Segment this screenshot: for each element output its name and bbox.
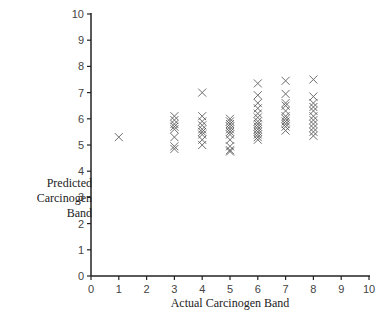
data-point-x-marker (309, 120, 317, 128)
y-tick-label: 6 (78, 113, 84, 125)
x-tick-label: 10 (363, 283, 375, 295)
data-point-x-marker (282, 77, 290, 85)
data-point-x-marker (198, 121, 206, 129)
y-axis-title: Predicted Carcinogen Band (4, 176, 92, 221)
data-point-x-marker (226, 136, 234, 144)
data-point-x-marker (254, 110, 262, 118)
x-tick-label: 4 (199, 283, 205, 295)
y-axis-title-line-2: Carcinogen (4, 191, 92, 206)
axes (91, 13, 370, 276)
x-tick-label: 3 (171, 283, 177, 295)
data-point-x-marker (309, 128, 317, 136)
data-point-x-marker (170, 112, 178, 120)
y-tick-label: 9 (78, 34, 84, 46)
y-tick-label: 10 (72, 8, 84, 20)
data-points (115, 76, 318, 156)
data-point-x-marker (254, 91, 262, 99)
data-point-x-marker (309, 76, 317, 84)
data-point-x-marker (198, 89, 206, 97)
data-point-x-marker (170, 116, 178, 124)
data-point-x-marker (309, 93, 317, 101)
x-tick-label: 7 (283, 283, 289, 295)
data-point-x-marker (309, 112, 317, 120)
data-point-x-marker (282, 90, 290, 98)
x-tick-label: 0 (88, 283, 94, 295)
y-tick-label: 0 (78, 270, 84, 282)
scatter-plot: 012345678910012345678910 (0, 0, 382, 320)
data-point-x-marker (226, 146, 234, 154)
y-tick-label: 1 (78, 244, 84, 256)
x-tick-label: 1 (116, 283, 122, 295)
data-point-x-marker (170, 133, 178, 141)
y-tick-label: 8 (78, 60, 84, 72)
data-point-x-marker (309, 116, 317, 124)
axis-ticks: 012345678910012345678910 (72, 8, 375, 295)
data-point-x-marker (309, 132, 317, 140)
data-point-x-marker (309, 103, 317, 111)
data-point-x-marker (226, 148, 234, 156)
x-axis-title: Actual Carcinogen Band (160, 296, 300, 311)
data-point-x-marker (309, 99, 317, 107)
data-point-x-marker (198, 117, 206, 125)
x-tick-label: 2 (144, 283, 150, 295)
y-tick-label: 7 (78, 87, 84, 99)
y-axis-title-line-1: Predicted (4, 176, 92, 191)
data-point-x-marker (309, 124, 317, 132)
y-axis-title-line-3: Band (4, 206, 92, 221)
y-tick-label: 5 (78, 139, 84, 151)
data-point-x-marker (115, 133, 123, 141)
data-point-x-marker (198, 141, 206, 149)
x-tick-label: 9 (338, 283, 344, 295)
data-point-x-marker (282, 127, 290, 135)
data-point-x-marker (254, 79, 262, 87)
x-tick-label: 6 (255, 283, 261, 295)
data-point-x-marker (254, 113, 262, 121)
x-tick-label: 8 (310, 283, 316, 295)
x-tick-label: 5 (227, 283, 233, 295)
